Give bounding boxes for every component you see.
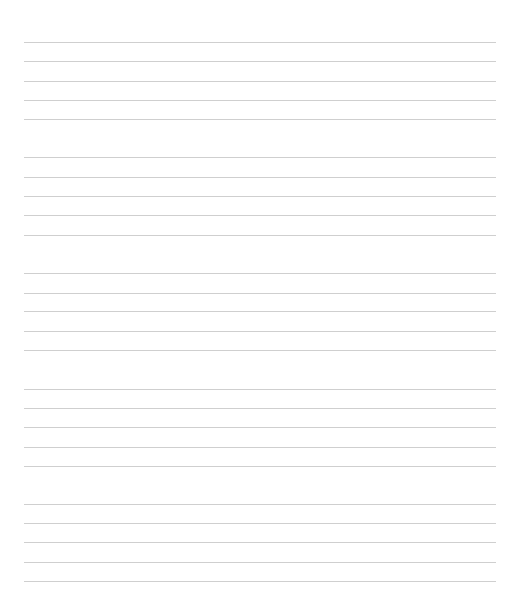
ruled-line — [24, 61, 496, 62]
ruled-page — [0, 0, 515, 612]
ruled-line — [24, 293, 496, 294]
ruled-line — [24, 196, 496, 197]
ruled-line — [24, 81, 496, 82]
ruled-line — [24, 157, 496, 158]
ruled-line — [24, 562, 496, 563]
ruled-line — [24, 235, 496, 236]
ruled-line — [24, 215, 496, 216]
ruled-line — [24, 350, 496, 351]
ruled-line — [24, 311, 496, 312]
ruled-line — [24, 466, 496, 467]
ruled-line — [24, 581, 496, 582]
ruled-line — [24, 389, 496, 390]
ruled-line — [24, 523, 496, 524]
ruled-line — [24, 542, 496, 543]
ruled-line — [24, 331, 496, 332]
ruled-line — [24, 119, 496, 120]
ruled-line — [24, 273, 496, 274]
ruled-line — [24, 408, 496, 409]
ruled-line — [24, 177, 496, 178]
ruled-line — [24, 447, 496, 448]
ruled-line — [24, 427, 496, 428]
ruled-line — [24, 42, 496, 43]
ruled-line — [24, 100, 496, 101]
ruled-line — [24, 504, 496, 505]
